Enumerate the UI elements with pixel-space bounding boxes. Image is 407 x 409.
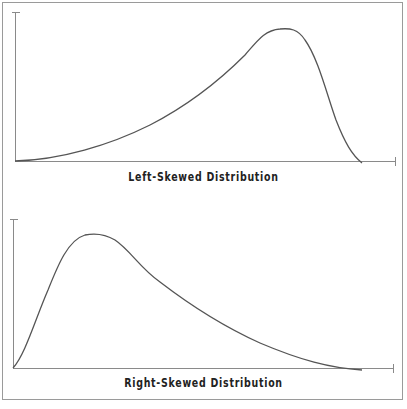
left-skewed-curve xyxy=(15,29,362,163)
right-skewed-axes xyxy=(10,219,394,373)
left-skewed-axes xyxy=(12,12,396,166)
right-skewed-curve xyxy=(13,234,362,370)
left-skewed-title: Left-Skewed Distribution xyxy=(37,170,371,184)
distribution-plots xyxy=(0,0,407,409)
right-skewed-title: Right-Skewed Distribution xyxy=(37,376,371,390)
